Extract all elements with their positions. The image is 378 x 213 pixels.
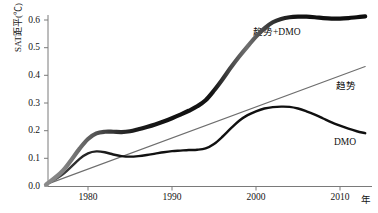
- series-line-trend: [46, 66, 365, 184]
- axis-lines: [48, 15, 372, 187]
- series-line-trend-plus-dmo: [46, 16, 365, 184]
- x-axis-ticks: [88, 187, 340, 191]
- y-axis-ticks: [44, 20, 48, 186]
- series-line-dmo: [46, 107, 365, 185]
- chart-svg-canvas: [0, 0, 378, 213]
